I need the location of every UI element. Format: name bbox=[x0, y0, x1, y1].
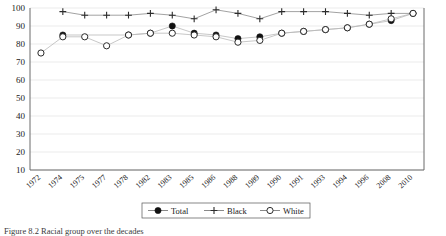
datapoint-black-1986 bbox=[213, 6, 220, 13]
datapoint-black-1988 bbox=[235, 10, 242, 17]
datapoint-black-1985 bbox=[191, 15, 198, 22]
series-line-white bbox=[41, 13, 413, 53]
x-tick-label-1996: 1996 bbox=[353, 173, 371, 190]
x-tick-label-1990: 1990 bbox=[265, 173, 283, 190]
y-tick-label: 30 bbox=[16, 129, 26, 139]
datapoint-white-1985 bbox=[191, 32, 197, 38]
datapoint-black-1982 bbox=[147, 10, 154, 17]
x-tick-label-2010: 2010 bbox=[396, 173, 414, 190]
datapoint-black-1974 bbox=[59, 8, 66, 15]
x-tick-label-1977: 1977 bbox=[90, 173, 108, 190]
axes-group bbox=[30, 8, 424, 170]
datapoint-white-1974 bbox=[60, 34, 66, 40]
x-tick-label-1988: 1988 bbox=[221, 173, 239, 190]
datapoint-white-1991 bbox=[301, 28, 307, 34]
y-tick-label: 80 bbox=[16, 39, 26, 49]
datapoint-white-1994 bbox=[344, 25, 350, 31]
x-tick-label-1972: 1972 bbox=[24, 173, 42, 190]
x-tick-label-1974: 1974 bbox=[46, 173, 64, 190]
x-tick-label-2008: 2008 bbox=[375, 173, 393, 190]
series-markers-group bbox=[38, 6, 417, 56]
x-tick-label-1978: 1978 bbox=[112, 173, 130, 190]
x-tick-label-1983: 1983 bbox=[156, 173, 174, 190]
x-tick-label-1985: 1985 bbox=[178, 173, 196, 190]
datapoint-white-1990 bbox=[279, 30, 285, 36]
legend-marker-white bbox=[267, 207, 273, 213]
datapoint-black-1994 bbox=[344, 10, 351, 17]
datapoint-white-1982 bbox=[147, 30, 153, 36]
x-tick-label-1994: 1994 bbox=[331, 173, 349, 190]
x-tick-label-1975: 1975 bbox=[68, 173, 86, 190]
y-tick-label: 10 bbox=[16, 165, 26, 175]
datapoint-black-1975 bbox=[81, 12, 88, 19]
x-tick-label-1993: 1993 bbox=[309, 173, 327, 190]
datapoint-white-1993 bbox=[322, 27, 328, 33]
gridlines-group bbox=[30, 8, 424, 170]
datapoint-white-2010 bbox=[410, 10, 416, 16]
y-axis-tick-labels: 100908070605040302010 bbox=[12, 3, 26, 175]
datapoint-black-1989 bbox=[256, 15, 263, 22]
caption-line: Figure 8.2 Racial group over the decades bbox=[4, 226, 144, 236]
y-tick-label: 100 bbox=[12, 3, 26, 13]
datapoint-black-1993 bbox=[322, 8, 329, 15]
chart-legend: TotalBlackWhite bbox=[142, 203, 310, 218]
y-tick-label: 50 bbox=[16, 93, 26, 103]
datapoint-black-1983 bbox=[169, 12, 176, 19]
datapoint-white-2008 bbox=[388, 16, 394, 22]
y-tick-label: 20 bbox=[16, 147, 26, 157]
legend-label-white: White bbox=[283, 206, 304, 216]
y-tick-label: 60 bbox=[16, 75, 26, 85]
datapoint-black-1978 bbox=[125, 12, 132, 19]
datapoint-black-1996 bbox=[366, 12, 373, 19]
x-tick-label-1982: 1982 bbox=[134, 173, 152, 190]
legend-label-black: Black bbox=[227, 206, 248, 216]
datapoint-black-1977 bbox=[103, 12, 110, 19]
datapoint-white-1996 bbox=[366, 21, 372, 27]
datapoint-white-1978 bbox=[125, 32, 131, 38]
chart-container: 100908070605040302010 197219741975197719… bbox=[0, 0, 446, 236]
datapoint-white-1977 bbox=[104, 43, 110, 49]
y-tick-label: 70 bbox=[16, 57, 26, 67]
datapoint-black-1991 bbox=[300, 8, 307, 15]
x-tick-label-1986: 1986 bbox=[199, 173, 217, 190]
y-tick-label: 90 bbox=[16, 21, 26, 31]
series-lines-group bbox=[41, 10, 413, 53]
datapoint-white-1986 bbox=[213, 34, 219, 40]
x-axis-tick-labels: 1972197419751977197819821983198519861988… bbox=[24, 173, 414, 190]
datapoint-white-1975 bbox=[82, 34, 88, 40]
racial-group-line-chart: 100908070605040302010 197219741975197719… bbox=[0, 0, 446, 236]
datapoint-white-1988 bbox=[235, 39, 241, 45]
figure-caption: Figure 8.2 Racial group over the decades bbox=[4, 226, 144, 236]
datapoint-white-1972 bbox=[38, 50, 44, 56]
y-tick-label: 40 bbox=[16, 111, 26, 121]
legend-marker-total bbox=[155, 207, 161, 213]
plot-axis-frame bbox=[30, 8, 424, 170]
datapoint-white-1983 bbox=[169, 30, 175, 36]
x-tick-label-1991: 1991 bbox=[287, 173, 305, 190]
datapoint-black-1990 bbox=[278, 8, 285, 15]
datapoint-total-1983 bbox=[169, 23, 175, 29]
datapoint-white-1989 bbox=[257, 37, 263, 43]
legend-label-total: Total bbox=[171, 206, 189, 216]
x-tick-label-1989: 1989 bbox=[243, 173, 261, 190]
